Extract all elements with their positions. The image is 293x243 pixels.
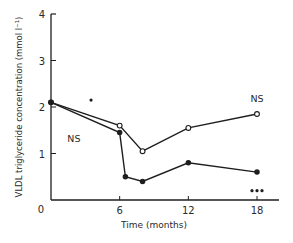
y-axis-label: VLDL triglyceride concentration (mmol l⁻… [14, 17, 24, 198]
open-circle-marker [140, 149, 145, 154]
filled-circle-marker [186, 161, 190, 165]
annotation-ns: NS [250, 93, 263, 104]
open-circle-marker [255, 112, 260, 117]
y-tick-label: 2 [39, 102, 45, 113]
significance-marker [89, 98, 92, 101]
significance-marker [255, 189, 258, 192]
x-axis-label: Time (months) [120, 220, 187, 230]
series-line-filled-circles [51, 102, 257, 181]
axis-ticks: 0123461218 [38, 9, 264, 216]
open-circle-marker [186, 126, 191, 131]
series-line-open-circles [51, 102, 257, 151]
filled-circle-marker [117, 130, 121, 134]
x-tick-label: 18 [251, 205, 264, 216]
y-tick-label: 4 [39, 9, 45, 20]
filled-circle-marker [123, 175, 127, 179]
annotations: NSNS [67, 93, 263, 192]
filled-circle-marker [140, 179, 144, 183]
open-circle-marker [117, 123, 122, 128]
filled-circle-marker [255, 170, 259, 174]
y-tick-label: 0 [38, 204, 44, 215]
line-chart: 0123461218 NSNS Time (months) VLDL trigl… [0, 0, 293, 243]
significance-marker [260, 189, 263, 192]
y-tick-label: 3 [39, 56, 45, 67]
significance-marker [250, 189, 253, 192]
x-tick-label: 12 [182, 205, 195, 216]
annotation-ns: NS [67, 133, 80, 144]
filled-circle-marker [49, 100, 53, 104]
x-tick-label: 6 [116, 205, 122, 216]
y-tick-label: 1 [39, 149, 45, 160]
